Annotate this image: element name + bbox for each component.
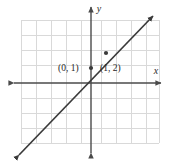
point-label-b: (1, 2) [100,63,121,74]
point-label-a: (0, 1) [58,63,79,74]
graph-screenshot: (0, 1) (1, 2) x y [0,0,175,164]
coordinate-plane-figure: (0, 1) (1, 2) x y [0,0,175,164]
point-marker-1-2 [104,51,108,55]
point-marker-0-1 [89,66,93,70]
y-axis-label: y [96,3,102,14]
line-series [19,16,153,155]
x-axis-label: x [153,65,159,76]
